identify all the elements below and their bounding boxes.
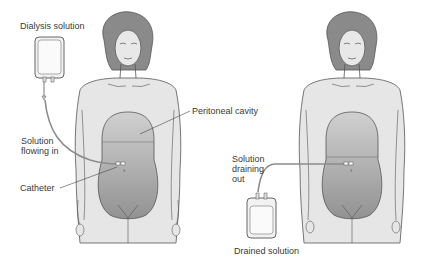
label-drained-solution: Drained solution	[234, 246, 299, 256]
drained-solution-bag	[247, 193, 276, 238]
label-solution-flowing-in: Solution flowing in	[21, 136, 59, 156]
label-peritoneal-cavity: Peritoneal cavity	[192, 106, 258, 116]
face-right	[339, 30, 365, 66]
label-dialysis-solution: Dialysis solution	[20, 21, 85, 31]
label-line: Solution	[232, 154, 265, 164]
label-catheter: Catheter	[20, 183, 55, 193]
label-line: flowing in	[21, 146, 59, 156]
label-line: Solution	[21, 136, 59, 146]
peritoneal-cavity-left	[98, 112, 158, 219]
figure-right-body	[299, 12, 405, 243]
dialysis-solution-bag	[35, 37, 64, 100]
peritoneal-cavity-right	[322, 112, 382, 219]
label-line: out	[232, 174, 265, 184]
face-left	[115, 30, 141, 66]
label-solution-draining-out: Solution draining out	[232, 154, 265, 184]
label-line: draining	[232, 164, 265, 174]
dialysis-diagram	[0, 0, 422, 263]
figure-left-body	[75, 12, 181, 243]
